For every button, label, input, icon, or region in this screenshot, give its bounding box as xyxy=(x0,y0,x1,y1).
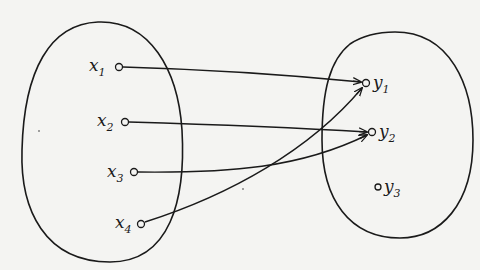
label-x1-sub: 1 xyxy=(99,66,106,79)
label-y3-sub: 3 xyxy=(394,187,401,200)
label-y1-base: y xyxy=(373,72,383,92)
mapping-diagram: x1 x2 x3 x4 y1 y2 y3 xyxy=(0,0,480,270)
speck xyxy=(38,130,40,132)
label-x3-sub: 3 xyxy=(117,172,124,185)
label-y1-sub: 1 xyxy=(383,83,390,96)
label-x3-base: x xyxy=(107,161,117,181)
label-x1: x1 xyxy=(89,57,106,78)
label-y1: y1 xyxy=(373,74,390,95)
label-x4: x4 xyxy=(115,214,132,235)
point-x3 xyxy=(131,169,138,176)
label-x4-sub: 4 xyxy=(125,223,132,236)
point-x1 xyxy=(116,64,123,71)
label-x2: x2 xyxy=(97,112,114,133)
label-y2-base: y xyxy=(379,121,389,141)
label-x2-sub: 2 xyxy=(107,121,114,134)
label-x3: x3 xyxy=(107,163,124,184)
label-x1-base: x xyxy=(89,55,99,75)
arrow-x2-to-y2 xyxy=(129,122,367,132)
label-x2-base: x xyxy=(97,110,107,130)
point-y2 xyxy=(369,129,376,136)
label-y2-sub: 2 xyxy=(389,132,396,145)
arrow-x3-to-y2 xyxy=(138,135,367,172)
speck xyxy=(242,188,244,190)
set-y-boundary xyxy=(322,32,473,238)
point-y1 xyxy=(363,80,370,87)
label-y2: y2 xyxy=(379,123,396,144)
label-x4-base: x xyxy=(115,212,125,232)
point-y3 xyxy=(375,184,381,190)
point-x2 xyxy=(122,119,129,126)
arrow-x1-to-y1 xyxy=(123,67,361,82)
label-y3: y3 xyxy=(384,178,401,199)
diagram-svg xyxy=(0,0,480,270)
point-x4 xyxy=(138,221,145,228)
label-y3-base: y xyxy=(384,176,394,196)
